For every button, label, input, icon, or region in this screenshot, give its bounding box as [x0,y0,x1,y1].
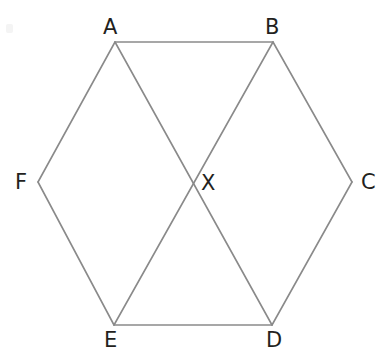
vertex-label-d: D [266,330,282,351]
segment-layer [38,42,352,325]
segment-cd [272,182,352,325]
vertex-label-b: B [265,17,279,38]
vertex-label-a: A [103,17,117,38]
vertex-label-x: X [201,173,215,194]
vertex-label-e: E [104,330,117,351]
vertex-label-c: C [361,172,376,193]
geometry-canvas [0,0,385,359]
geometry-figure: ABCDEFX [0,0,385,359]
vertex-label-f: F [15,172,27,193]
segment-bc [273,42,352,182]
segment-ef [38,182,114,325]
segment-fa [38,42,115,182]
